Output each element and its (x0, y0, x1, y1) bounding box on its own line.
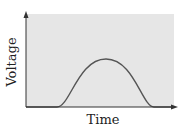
x-axis-arrow-icon (171, 105, 178, 110)
voltage-time-chart: Time Voltage (0, 0, 183, 129)
y-axis-label: Voltage (4, 37, 19, 87)
x-axis-label: Time (87, 112, 120, 127)
